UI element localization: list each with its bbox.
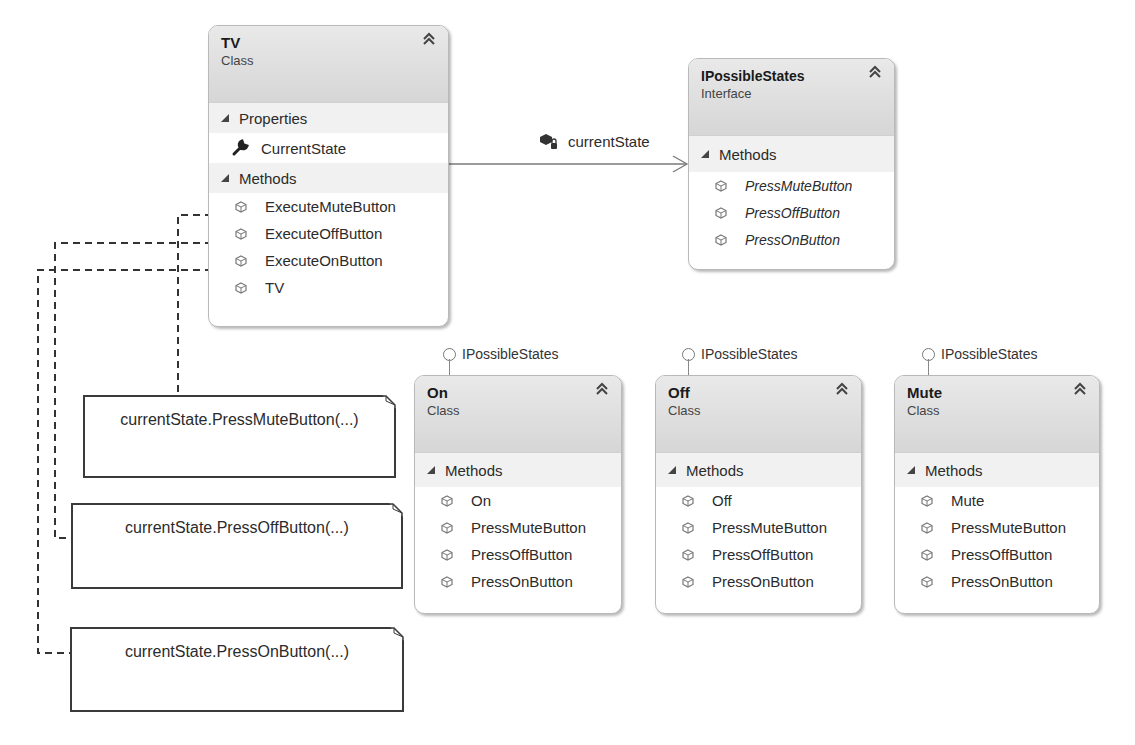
method-item[interactable]: PressOnButton (656, 568, 861, 595)
class-shape-mute[interactable]: Mute Class Methods Mute PressMuteButton … (894, 375, 1100, 614)
section-label: Properties (239, 110, 307, 127)
class-name: Mute (907, 384, 1087, 402)
method-cube-icon (921, 522, 933, 534)
triangle-expanded-icon[interactable] (701, 150, 709, 158)
triangle-expanded-icon[interactable] (427, 466, 435, 474)
implements-label: IPossibleStates (941, 346, 1038, 362)
method-item[interactable]: TV (209, 274, 448, 301)
double-chevron-up-icon[interactable] (595, 382, 609, 396)
method-cube-icon (921, 549, 933, 561)
note-fold-icon (389, 503, 403, 517)
method-item[interactable]: PressOnButton (895, 568, 1099, 595)
method-cube-icon (715, 180, 727, 192)
section-label: Methods (445, 462, 503, 479)
method-item[interactable]: PressOffButton (415, 541, 621, 568)
triangle-expanded-icon[interactable] (221, 174, 229, 182)
method-item[interactable]: PressOnButton (689, 226, 894, 253)
class-name: Off (668, 384, 849, 402)
double-chevron-up-icon[interactable] (868, 65, 882, 79)
interface-header[interactable]: IPossibleStates Interface (689, 59, 894, 136)
class-shape-on[interactable]: On Class Methods On PressMuteButton Pres… (414, 375, 622, 614)
class-header[interactable]: Off Class (656, 376, 861, 453)
lollipop-off[interactable]: IPossibleStates (682, 346, 798, 362)
implements-label: IPossibleStates (701, 346, 798, 362)
class-shape-off[interactable]: Off Class Methods Off PressMuteButton Pr… (655, 375, 862, 614)
double-chevron-up-icon[interactable] (835, 382, 849, 396)
interface-shape-ipossiblestates[interactable]: IPossibleStates Interface Methods PressM… (688, 58, 895, 270)
lollipop-stem (928, 359, 929, 376)
association-label[interactable]: currentState (538, 131, 650, 151)
section-methods[interactable]: Methods (656, 453, 861, 487)
method-label: PressOnButton (745, 232, 840, 248)
method-cube-icon (682, 495, 694, 507)
class-kind: Class (907, 402, 1087, 420)
note-text: currentState.PressOffButton(...) (73, 519, 401, 537)
class-header[interactable]: TV Class (209, 26, 448, 103)
class-header[interactable]: Mute Class (895, 376, 1099, 453)
triangle-expanded-icon[interactable] (907, 466, 915, 474)
method-cube-icon (682, 576, 694, 588)
lollipop-on[interactable]: IPossibleStates (443, 346, 559, 362)
note-fold-icon (390, 627, 404, 641)
method-item[interactable]: ExecuteOffButton (209, 220, 448, 247)
method-item[interactable]: PressMuteButton (415, 514, 621, 541)
method-label: Mute (951, 492, 984, 509)
class-name: On (427, 384, 609, 402)
method-label: PressOffButton (745, 205, 840, 221)
method-cube-icon (715, 234, 727, 246)
triangle-expanded-icon[interactable] (668, 466, 676, 474)
lollipop-stem (449, 359, 450, 376)
method-cube-icon (715, 207, 727, 219)
method-cube-icon (235, 201, 247, 213)
section-label: Methods (925, 462, 983, 479)
implements-label: IPossibleStates (462, 346, 559, 362)
section-label: Methods (719, 146, 777, 163)
method-item[interactable]: PressOffButton (689, 199, 894, 226)
method-item[interactable]: ExecuteMuteButton (209, 193, 448, 220)
method-label: PressMuteButton (712, 519, 827, 536)
method-label: PressOnButton (951, 573, 1053, 590)
class-shape-tv[interactable]: TV Class Properties CurrentState Methods… (208, 25, 449, 327)
method-label: PressOffButton (471, 546, 572, 563)
comment-note-off[interactable]: currentState.PressOffButton(...) (71, 503, 403, 589)
method-item[interactable]: PressMuteButton (895, 514, 1099, 541)
section-methods[interactable]: Methods (415, 453, 621, 487)
method-item[interactable]: PressMuteButton (656, 514, 861, 541)
class-name: TV (221, 34, 436, 52)
method-item[interactable]: On (415, 487, 621, 514)
note-text: currentState.PressOnButton(...) (72, 643, 402, 661)
section-properties[interactable]: Properties (209, 103, 448, 133)
class-kind: Class (221, 52, 436, 70)
comment-note-mute[interactable]: currentState.PressMuteButton(...) (83, 395, 396, 478)
method-cube-icon (441, 495, 453, 507)
method-item[interactable]: Mute (895, 487, 1099, 514)
lollipop-mute[interactable]: IPossibleStates (922, 346, 1038, 362)
method-cube-icon (235, 282, 247, 294)
double-chevron-up-icon[interactable] (422, 32, 436, 46)
section-methods[interactable]: Methods (689, 136, 894, 172)
interface-kind: Interface (701, 85, 882, 103)
method-item[interactable]: PressOffButton (895, 541, 1099, 568)
method-label: ExecuteOnButton (265, 252, 383, 269)
method-item[interactable]: PressOffButton (656, 541, 861, 568)
method-label: PressOnButton (471, 573, 573, 590)
section-label: Methods (686, 462, 744, 479)
method-item[interactable]: PressOnButton (415, 568, 621, 595)
method-item[interactable]: ExecuteOnButton (209, 247, 448, 274)
method-label: ExecuteMuteButton (265, 198, 396, 215)
method-item[interactable]: Off (656, 487, 861, 514)
method-item[interactable]: PressMuteButton (689, 172, 894, 199)
class-header[interactable]: On Class (415, 376, 621, 453)
method-label: PressMuteButton (745, 178, 852, 194)
section-methods[interactable]: Methods (209, 163, 448, 193)
method-label: PressMuteButton (951, 519, 1066, 536)
property-item[interactable]: CurrentState (209, 133, 448, 163)
triangle-expanded-icon[interactable] (221, 114, 229, 122)
section-label: Methods (239, 170, 297, 187)
comment-note-on[interactable]: currentState.PressOnButton(...) (70, 627, 404, 712)
method-cube-icon (921, 495, 933, 507)
method-label: PressMuteButton (471, 519, 586, 536)
section-methods[interactable]: Methods (895, 453, 1099, 487)
double-chevron-up-icon[interactable] (1073, 382, 1087, 396)
class-kind: Class (668, 402, 849, 420)
